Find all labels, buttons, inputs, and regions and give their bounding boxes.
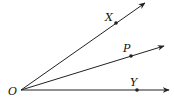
point-x-dot: [114, 21, 118, 25]
ray-OP: [21, 46, 164, 90]
point-label-y: Y: [130, 76, 139, 89]
angle-diagram: O X P Y: [0, 0, 174, 110]
point-label-x: X: [104, 11, 114, 24]
point-label-p: P: [122, 42, 131, 55]
vertex-label-o: O: [8, 85, 17, 98]
